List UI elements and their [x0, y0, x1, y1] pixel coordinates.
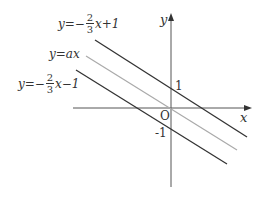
- fraction: 2 3: [86, 12, 94, 35]
- graph-canvas: [0, 0, 264, 207]
- numerator: 2: [47, 72, 53, 83]
- numerator: 2: [87, 12, 93, 23]
- label-line-bottom-post: x−1: [55, 77, 79, 91]
- label-line-bottom-pre: y=−: [18, 77, 45, 91]
- label-line-middle: y=ax: [49, 48, 80, 60]
- origin-label: O: [160, 110, 170, 122]
- line-bottom: [76, 70, 227, 164]
- label-line-top: y=− 2 3 x+1: [58, 12, 119, 35]
- label-line-top-post: x+1: [95, 17, 119, 31]
- x-axis-label: x: [240, 111, 247, 124]
- graph-figure: y x O 1 -1 y=− 2 3 x+1 y=ax y=− 2 3 x−1: [0, 0, 264, 207]
- label-line-bottom: y=− 2 3 x−1: [18, 72, 79, 95]
- fraction: 2 3: [46, 72, 54, 95]
- tick-label-neg1: -1: [155, 127, 167, 139]
- tick-label-1: 1: [175, 80, 183, 92]
- denominator: 3: [87, 24, 93, 35]
- label-line-top-pre: y=−: [58, 17, 85, 31]
- denominator: 3: [47, 84, 53, 95]
- y-axis-label: y: [160, 13, 167, 26]
